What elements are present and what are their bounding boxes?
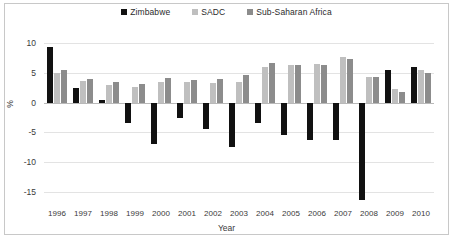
bar xyxy=(99,100,105,103)
legend-entry: Zimbabwe xyxy=(121,8,170,17)
y-tick-label: -10 xyxy=(24,158,36,167)
legend-swatch-icon xyxy=(247,9,253,15)
legend-swatch-icon xyxy=(192,9,198,15)
bar xyxy=(139,84,145,103)
bar xyxy=(314,64,320,103)
bar-group xyxy=(359,37,379,207)
y-tick-label: -5 xyxy=(28,128,36,137)
bar xyxy=(359,103,365,200)
x-axis-tick-labels: 1996199719981999200020012002200320042005… xyxy=(44,210,434,222)
bar xyxy=(255,103,261,124)
bar xyxy=(262,67,268,103)
x-tick-label: 2005 xyxy=(282,210,300,218)
bar xyxy=(321,65,327,103)
bar xyxy=(411,67,417,103)
x-tick-label: 2003 xyxy=(230,210,248,218)
bar xyxy=(236,82,242,103)
bar xyxy=(61,70,67,103)
x-tick-label: 2004 xyxy=(256,210,274,218)
legend-entry: Sub-Saharan Africa xyxy=(247,8,332,17)
bar xyxy=(229,103,235,148)
bar-group xyxy=(203,37,223,207)
plot-area xyxy=(44,37,434,207)
bar xyxy=(54,73,60,102)
bar xyxy=(132,87,138,103)
bar xyxy=(106,85,112,102)
bar xyxy=(385,70,391,102)
y-tick-label: 5 xyxy=(31,69,36,78)
bar xyxy=(333,103,339,140)
bar-group xyxy=(47,37,67,207)
y-tick-label: 0 xyxy=(31,98,36,107)
bar xyxy=(151,103,157,145)
x-tick-label: 2007 xyxy=(334,210,352,218)
y-tick-label: 10 xyxy=(27,39,36,48)
x-tick-label: 2001 xyxy=(178,210,196,218)
bar xyxy=(113,82,119,103)
x-tick-label: 2010 xyxy=(412,210,430,218)
chart-figure: ZimbabweSADCSub-Saharan Africa % 1050-5-… xyxy=(0,0,453,245)
bar xyxy=(47,47,53,103)
legend-label: Sub-Saharan Africa xyxy=(256,8,332,17)
bar-group xyxy=(151,37,171,207)
bar xyxy=(158,82,164,102)
bar xyxy=(184,82,190,103)
bar xyxy=(399,92,405,102)
bar xyxy=(177,103,183,118)
bar xyxy=(373,77,379,103)
bar xyxy=(191,80,197,103)
x-tick-label: 1998 xyxy=(100,210,118,218)
bar-group xyxy=(281,37,301,207)
bar-group xyxy=(177,37,197,207)
bar xyxy=(217,79,223,102)
bar xyxy=(347,59,353,103)
x-tick-label: 1999 xyxy=(126,210,144,218)
x-tick-label: 2002 xyxy=(204,210,222,218)
bar xyxy=(203,103,209,130)
bar xyxy=(269,63,275,103)
y-axis-tick-labels: 1050-5-10-15 xyxy=(0,37,40,207)
bar xyxy=(243,75,249,103)
x-tick-label: 2006 xyxy=(308,210,326,218)
bar-group xyxy=(255,37,275,207)
bar xyxy=(425,73,431,103)
bar xyxy=(165,78,171,102)
chart-legend: ZimbabweSADCSub-Saharan Africa xyxy=(0,8,453,17)
bar xyxy=(418,70,424,103)
bar-group xyxy=(385,37,405,207)
bar xyxy=(340,57,346,102)
x-tick-label: 2008 xyxy=(360,210,378,218)
bar xyxy=(307,103,313,141)
legend-label: SADC xyxy=(201,8,225,17)
bar-group xyxy=(229,37,249,207)
bar xyxy=(295,65,301,103)
bar xyxy=(125,103,131,124)
bar-group xyxy=(99,37,119,207)
x-tick-label: 2000 xyxy=(152,210,170,218)
bar xyxy=(281,103,287,136)
legend-swatch-icon xyxy=(121,9,127,15)
bar-group xyxy=(333,37,353,207)
bar-group xyxy=(307,37,327,207)
x-tick-label: 1997 xyxy=(74,210,92,218)
bar xyxy=(73,88,79,103)
legend-label: Zimbabwe xyxy=(130,8,170,17)
bar xyxy=(80,81,86,102)
x-tick-label: 2009 xyxy=(386,210,404,218)
bar xyxy=(366,77,372,103)
bar xyxy=(87,79,93,103)
bar xyxy=(288,65,294,103)
x-axis-title: Year xyxy=(0,224,453,233)
bar xyxy=(392,89,398,102)
y-tick-label: -15 xyxy=(24,188,36,197)
x-tick-label: 1996 xyxy=(48,210,66,218)
bar-group xyxy=(125,37,145,207)
bar-group xyxy=(73,37,93,207)
bar-group xyxy=(411,37,431,207)
legend-entry: SADC xyxy=(192,8,225,17)
bar xyxy=(210,83,216,103)
